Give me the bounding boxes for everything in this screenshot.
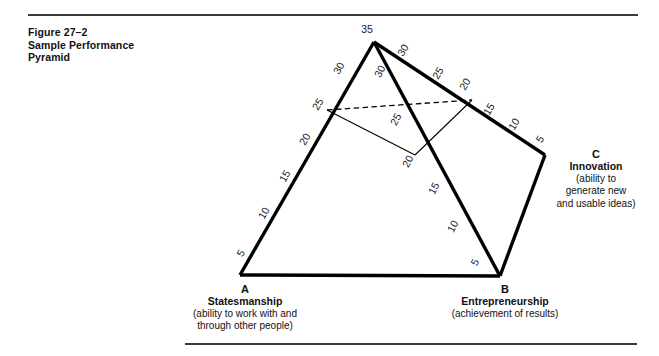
vertex-label-a: A Statesmanship (ability to work with an… (170, 283, 320, 333)
tick-left-30: 30 (330, 60, 346, 76)
connector-center20-to-right20 (415, 100, 472, 155)
vertex-b-letter: B (430, 283, 580, 295)
vertex-a-desc-line-2: through other people) (170, 320, 320, 332)
figure-page: Figure 27–2 Sample Performance Pyramid 3… (0, 0, 659, 356)
tick-right-5: 5 (533, 133, 546, 144)
vertex-a-name: Statesmanship (170, 295, 320, 307)
edge-apex-to-c (374, 42, 545, 155)
tick-front-15: 15 (425, 180, 441, 196)
vertex-c-name: Innovation (540, 160, 652, 172)
tick-left-20: 20 (296, 131, 312, 147)
tick-left-5: 5 (234, 247, 247, 258)
dashed-connector-25-to-20 (327, 100, 472, 110)
vertex-label-b: B Entrepreneurship (achievement of resul… (430, 283, 580, 320)
tick-right-20: 20 (456, 76, 472, 92)
vertex-c-desc-line-3: and usable ideas) (540, 198, 652, 210)
vertex-c-desc-line-2: generate new (540, 185, 652, 197)
tick-front-5: 5 (468, 257, 481, 268)
tick-front-10: 10 (444, 218, 460, 234)
vertex-a-letter: A (170, 283, 320, 295)
tick-front-20: 20 (399, 153, 415, 169)
vertex-b-name: Entrepreneurship (430, 295, 580, 307)
tick-left-10: 10 (255, 205, 271, 221)
vertex-label-c: C Innovation (ability to generate new an… (540, 148, 652, 210)
tick-left-25: 25 (309, 96, 325, 112)
tick-front-25: 25 (387, 111, 403, 127)
vertex-c-letter: C (540, 148, 652, 160)
edge-a-to-b-base (240, 275, 500, 276)
vertex-b-desc-line-1: (achievement of results) (430, 308, 580, 320)
edge-c-to-b (500, 155, 545, 276)
tick-apex-35: 35 (361, 23, 373, 35)
edge-a-to-apex (240, 42, 374, 275)
tick-left-15: 15 (276, 168, 292, 184)
vertex-a-desc-line-1: (ability to work with and (170, 308, 320, 320)
vertex-c-desc-line-1: (ability to (540, 173, 652, 185)
